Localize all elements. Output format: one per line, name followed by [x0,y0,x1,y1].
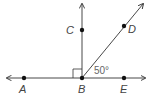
point-E [122,76,126,80]
angle-label: 50° [94,65,109,76]
label-A: A [18,83,26,95]
point-D [122,24,126,28]
label-D: D [128,23,136,35]
label-E: E [120,83,128,95]
point-C [80,28,84,32]
point-B [80,76,84,80]
label-B: B [78,83,85,95]
label-C: C [66,24,74,36]
ray-BD [82,4,143,78]
point-A [22,76,26,80]
geometry-diagram: A B E C D 50° [0,0,150,97]
